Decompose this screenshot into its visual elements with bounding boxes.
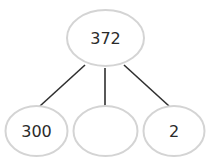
diagram-svg: 372 300 2 [0, 0, 209, 163]
root-node: 372 [67, 10, 144, 66]
edges [40, 65, 169, 106]
edge-root-to-left [40, 65, 85, 106]
edge-root-to-right [124, 65, 169, 106]
child-node-left: 300 [6, 106, 68, 156]
root-value: 372 [90, 29, 121, 48]
left-child-value: 300 [21, 122, 52, 141]
number-bond-diagram: 372 300 2 [0, 0, 209, 163]
child-node-middle [74, 106, 138, 156]
child-node-right: 2 [144, 106, 205, 156]
right-child-value: 2 [169, 122, 179, 141]
